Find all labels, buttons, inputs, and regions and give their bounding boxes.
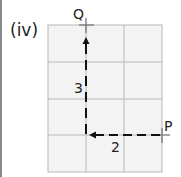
point-q-label: Q: [73, 7, 84, 21]
grid-diagram: [0, 0, 181, 177]
move-left-steps: 2: [111, 140, 120, 154]
point-p-label: P: [164, 119, 172, 133]
move-up-steps: 3: [74, 81, 83, 95]
